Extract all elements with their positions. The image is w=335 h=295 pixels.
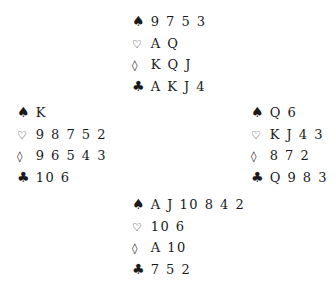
- club-icon: ♣: [17, 167, 30, 189]
- south-diamonds: A 10: [151, 240, 187, 255]
- west-spades-row: ♠ K: [17, 102, 107, 124]
- south-spades: A J 10 8 4 2: [151, 197, 246, 212]
- west-diamonds-row: ◊ 9 6 5 4 3: [17, 145, 107, 167]
- south-clubs: 7 5 2: [151, 262, 192, 277]
- south-hearts: 10 6: [151, 219, 186, 234]
- east-hearts-row: ♡ K J 4 3: [251, 124, 328, 146]
- diamond-icon: ◊: [251, 146, 264, 168]
- north-diamonds-row: ◊ K Q J: [132, 54, 207, 76]
- spade-icon: ♠: [17, 102, 30, 124]
- north-hearts: A Q: [151, 36, 180, 51]
- east-clubs-row: ♣ Q 9 8 3: [251, 167, 328, 189]
- south-hearts-row: ♡ 10 6: [132, 216, 245, 238]
- east-diamonds: 8 7 2: [270, 148, 311, 163]
- north-hand: ♠ 9 7 5 3 ♡ A Q ◊ K Q J ♣ A K J 4: [132, 11, 207, 98]
- north-clubs: A K J 4: [151, 79, 206, 94]
- south-diamonds-row: ◊ A 10: [132, 237, 245, 259]
- west-spades: K: [36, 105, 47, 120]
- diamond-icon: ◊: [132, 55, 145, 77]
- club-icon: ♣: [251, 167, 264, 189]
- club-icon: ♣: [132, 259, 145, 281]
- heart-icon: ♡: [132, 217, 145, 239]
- spade-icon: ♠: [132, 11, 145, 33]
- south-hand: ♠ A J 10 8 4 2 ♡ 10 6 ◊ A 10 ♣ 7 5 2: [132, 194, 245, 281]
- south-clubs-row: ♣ 7 5 2: [132, 259, 245, 281]
- north-spades-row: ♠ 9 7 5 3: [132, 11, 207, 33]
- east-diamonds-row: ◊ 8 7 2: [251, 145, 328, 167]
- diamond-icon: ◊: [17, 146, 30, 168]
- club-icon: ♣: [132, 76, 145, 98]
- north-diamonds: K Q J: [151, 57, 192, 72]
- west-diamonds: 9 6 5 4 3: [36, 148, 107, 163]
- west-clubs-row: ♣ 10 6: [17, 167, 107, 189]
- heart-icon: ♡: [132, 34, 145, 56]
- heart-icon: ♡: [251, 125, 264, 147]
- diamond-icon: ◊: [132, 238, 145, 260]
- east-hearts: K J 4 3: [270, 127, 324, 142]
- east-spades-row: ♠ Q 6: [251, 102, 328, 124]
- north-clubs-row: ♣ A K J 4: [132, 76, 207, 98]
- north-hearts-row: ♡ A Q: [132, 33, 207, 55]
- west-hand: ♠ K ♡ 9 8 7 5 2 ◊ 9 6 5 4 3 ♣ 10 6: [17, 102, 107, 189]
- north-spades: 9 7 5 3: [151, 14, 207, 29]
- south-spades-row: ♠ A J 10 8 4 2: [132, 194, 245, 216]
- west-hearts: 9 8 7 5 2: [36, 127, 107, 142]
- east-clubs: Q 9 8 3: [270, 170, 328, 185]
- west-hearts-row: ♡ 9 8 7 5 2: [17, 124, 107, 146]
- east-hand: ♠ Q 6 ♡ K J 4 3 ◊ 8 7 2 ♣ Q 9 8 3: [251, 102, 328, 189]
- east-spades: Q 6: [270, 105, 298, 120]
- spade-icon: ♠: [251, 102, 264, 124]
- spade-icon: ♠: [132, 194, 145, 216]
- west-clubs: 10 6: [36, 170, 71, 185]
- heart-icon: ♡: [17, 125, 30, 147]
